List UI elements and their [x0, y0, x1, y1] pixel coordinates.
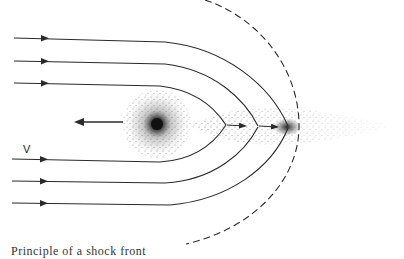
- arrowhead-icon: [40, 156, 48, 162]
- caption: Principle of a shock front: [11, 244, 146, 259]
- shock-knot: [273, 118, 301, 136]
- arrowhead-icon: [41, 58, 49, 64]
- velocity-label: V: [23, 143, 30, 155]
- motion-arrow: [74, 118, 123, 126]
- arrow-left-icon: [74, 118, 84, 126]
- arrowhead-icon: [40, 200, 48, 206]
- arrowhead-icon: [41, 80, 49, 86]
- arrowhead-icon: [40, 178, 48, 184]
- nucleus: [123, 90, 191, 158]
- flow-arrowheads: [40, 35, 49, 206]
- arrowhead-icon: [41, 35, 49, 41]
